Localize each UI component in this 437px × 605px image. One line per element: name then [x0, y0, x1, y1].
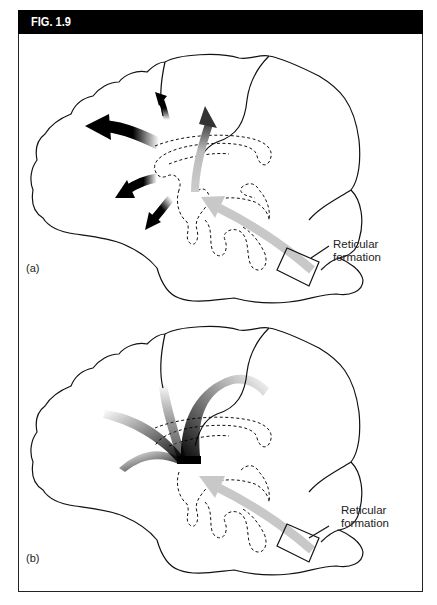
figure-header: FIG. 1.9: [18, 10, 423, 34]
ascending-arrow-gray: [199, 476, 312, 550]
reticular-formation-callout-a: Reticular formation: [333, 238, 381, 264]
callout-line2: formation: [333, 251, 381, 264]
projection-arrows-black: [85, 92, 171, 230]
panel-label-a: (a): [26, 262, 39, 274]
callout-line2: formation: [341, 517, 389, 530]
callout-line1: Reticular: [333, 238, 381, 251]
ascending-arrow-gray: [195, 106, 312, 270]
brain-diagram-a: [19, 40, 422, 310]
brain-diagram-b: [19, 312, 422, 590]
panel-a: (a) Reticular formation: [19, 40, 422, 310]
reticular-formation-callout-b: Reticular formation: [341, 504, 389, 530]
panel-b: (b) Reticular formation: [19, 312, 422, 590]
callout-line1: Reticular: [341, 504, 389, 517]
figure-title: FIG. 1.9: [31, 14, 71, 29]
panel-label-b: (b): [26, 552, 39, 564]
